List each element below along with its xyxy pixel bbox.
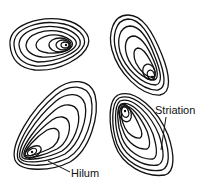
hilum-label: Hilum (71, 168, 99, 179)
granule-top-right (111, 15, 169, 95)
hilum-leader-line (48, 161, 70, 172)
starch-granules-diagram (0, 0, 203, 194)
granule-bottom-left (14, 82, 96, 170)
striation-label: Striation (155, 105, 195, 116)
granule-top-left (10, 19, 89, 70)
